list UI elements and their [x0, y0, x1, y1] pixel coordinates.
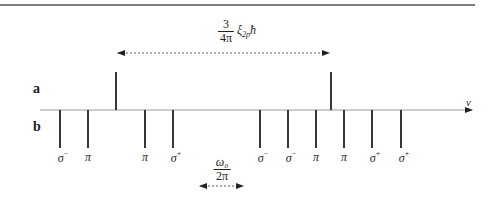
polarization-sign: + — [376, 149, 381, 158]
polarization-label: σ− — [286, 151, 296, 164]
polarization-sign: + — [405, 149, 410, 158]
fraction-denominator: 4π — [218, 32, 234, 45]
larmor-label: ω₀ 2π — [214, 156, 231, 183]
larmor-denominator: 2π — [214, 170, 230, 183]
polarization-label: σ+ — [399, 151, 409, 164]
spin-orbit-constant: ξ2pħ — [237, 23, 256, 39]
polarization-label: σ+ — [370, 151, 380, 164]
fraction-numerator: 3 — [221, 18, 231, 31]
spectrum-a-lines — [116, 72, 331, 110]
polarization-label: π — [85, 151, 91, 163]
row-label-a: a — [33, 82, 40, 96]
polarization-sign: + — [177, 149, 182, 158]
spin-orbit-label: 3 4π ξ2pħ — [218, 18, 256, 45]
polarization-label: π — [142, 151, 148, 163]
axis-label-nu: ν — [466, 97, 471, 108]
polarization-sign: − — [264, 149, 269, 158]
polarization-label: σ− — [58, 151, 68, 164]
hbar-symbol: ħ — [250, 23, 256, 37]
zeeman-spectrum-diagram: a b ν 3 4π ξ2pħ ω₀ 2π σ−ππσ+σ−σ−ππσ+σ+ — [0, 0, 497, 203]
polarization-label: σ+ — [171, 151, 181, 164]
spin-orbit-fraction: 3 4π — [218, 18, 234, 45]
polarization-label: σ− — [258, 151, 268, 164]
polarization-label: π — [313, 151, 319, 163]
polarization-sign: − — [292, 149, 297, 158]
row-label-b: b — [33, 120, 41, 134]
polarization-sign: − — [64, 149, 69, 158]
polarization-label: π — [341, 151, 347, 163]
larmor-numerator: ω₀ — [214, 156, 231, 169]
spectrum-b-lines — [60, 110, 401, 148]
xi-subscript: 2p — [242, 31, 250, 40]
